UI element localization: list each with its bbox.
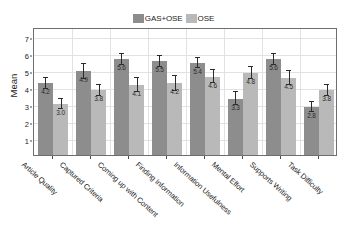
x-tick-mark bbox=[90, 156, 91, 159]
vertical-gridline bbox=[110, 29, 111, 155]
chart-legend: GAS+OSEOSE bbox=[0, 11, 350, 25]
y-tick-mark-2 bbox=[30, 123, 32, 124]
y-tick-mark-5 bbox=[30, 72, 32, 73]
vertical-gridline bbox=[300, 29, 301, 155]
vertical-gridline bbox=[148, 29, 149, 155]
plot-area: 4.23.04.93.85.64.15.54.25.44.63.34.85.64… bbox=[33, 28, 337, 156]
error-bar-cap bbox=[324, 84, 329, 85]
error-bar-cap bbox=[233, 104, 238, 105]
y-tick-mark-7 bbox=[30, 38, 32, 39]
error-bar-cap bbox=[195, 67, 200, 68]
y-tick-mark-6 bbox=[30, 55, 32, 56]
error-bar bbox=[289, 71, 290, 85]
error-bar-cap bbox=[309, 111, 314, 112]
bar bbox=[243, 73, 258, 155]
bar-value-label: 2.8 bbox=[304, 112, 319, 119]
error-bar-cap bbox=[248, 78, 253, 79]
error-bar-cap bbox=[81, 63, 86, 64]
bar-value-label: 5.6 bbox=[266, 64, 281, 71]
bar-value-label: 3.8 bbox=[319, 95, 334, 102]
bar-group: 4.23.0 bbox=[38, 29, 68, 155]
error-bar-cap bbox=[96, 95, 101, 96]
vertical-gridline bbox=[72, 29, 73, 155]
bar-group: 3.34.8 bbox=[228, 29, 258, 155]
vertical-gridline bbox=[224, 29, 225, 155]
bar-value-label: 3.8 bbox=[91, 95, 106, 102]
error-bar-cap bbox=[119, 64, 124, 65]
error-bar-cap bbox=[43, 88, 48, 89]
error-bar-cap bbox=[271, 53, 276, 54]
y-tick-label-2: 2 bbox=[25, 119, 29, 128]
legend-entry-ose: OSE bbox=[186, 14, 215, 23]
x-tick-mark bbox=[318, 156, 319, 159]
bar-group: 5.64.5 bbox=[266, 29, 296, 155]
bar-value-label: 4.8 bbox=[243, 78, 258, 85]
x-tick-mark bbox=[52, 156, 53, 159]
y-tick-mark-4 bbox=[30, 89, 32, 90]
x-tick-mark bbox=[242, 156, 243, 159]
error-bar-cap bbox=[195, 57, 200, 58]
error-bar-cap bbox=[286, 84, 291, 85]
bar-group: 4.93.8 bbox=[76, 29, 106, 155]
bar-chart-figure: GAS+OSEOSE Mean 1234567 4.23.04.93.85.64… bbox=[0, 0, 350, 238]
legend-swatch-icon bbox=[133, 14, 144, 23]
bar-value-label: 3.0 bbox=[53, 109, 68, 116]
error-bar-cap bbox=[81, 78, 86, 79]
vertical-gridline bbox=[262, 29, 263, 155]
legend-label: OSE bbox=[198, 14, 215, 23]
y-tick-label-1: 1 bbox=[25, 136, 29, 145]
bar bbox=[190, 63, 205, 155]
error-bar-cap bbox=[134, 77, 139, 78]
error-bar-cap bbox=[172, 90, 177, 91]
error-bar-cap bbox=[157, 55, 162, 56]
y-tick-label-7: 7 bbox=[25, 34, 29, 43]
x-tick-label: Task Difficulty bbox=[286, 160, 325, 196]
error-bar-cap bbox=[210, 82, 215, 83]
x-tick-label: Mental Effort bbox=[210, 160, 247, 194]
error-bar-cap bbox=[233, 91, 238, 92]
bar-value-label: 4.2 bbox=[38, 88, 53, 95]
bar bbox=[76, 71, 91, 155]
bar-group: 5.64.1 bbox=[114, 29, 144, 155]
bar-group: 2.83.8 bbox=[304, 29, 334, 155]
error-bar-cap bbox=[248, 66, 253, 67]
error-bar-cap bbox=[96, 84, 101, 85]
error-bar-cap bbox=[271, 64, 276, 65]
error-bar-cap bbox=[58, 108, 63, 109]
error-bar-cap bbox=[134, 91, 139, 92]
bar-group: 5.44.6 bbox=[190, 29, 220, 155]
error-bar-cap bbox=[157, 66, 162, 67]
vertical-gridline bbox=[186, 29, 187, 155]
legend-entry-gas-plus-ose: GAS+OSE bbox=[133, 14, 183, 23]
y-tick-label-6: 6 bbox=[25, 51, 29, 60]
x-tick-label: Article Quality bbox=[20, 160, 59, 197]
x-tick-mark bbox=[128, 156, 129, 159]
y-tick-mark-1 bbox=[30, 140, 32, 141]
error-bar-cap bbox=[324, 95, 329, 96]
x-tick-mark bbox=[204, 156, 205, 159]
error-bar-cap bbox=[58, 98, 63, 99]
error-bar-cap bbox=[172, 75, 177, 76]
bar-value-label: 5.5 bbox=[152, 66, 167, 73]
legend-swatch-icon bbox=[186, 14, 197, 23]
bar bbox=[152, 61, 167, 155]
bar bbox=[114, 59, 129, 155]
bar bbox=[266, 59, 281, 155]
error-bar-cap bbox=[309, 101, 314, 102]
y-tick-mark-3 bbox=[30, 106, 32, 107]
error-bar-cap bbox=[119, 53, 124, 54]
error-bar bbox=[137, 78, 138, 92]
x-axis-tick-labels: Article QualityCaptured CriteriaComing u… bbox=[33, 160, 337, 230]
bar-group: 5.54.2 bbox=[152, 29, 182, 155]
bar-value-label: 5.6 bbox=[114, 64, 129, 71]
error-bar-cap bbox=[210, 69, 215, 70]
error-bar-cap bbox=[286, 70, 291, 71]
y-tick-label-3: 3 bbox=[25, 102, 29, 111]
y-axis-tick-labels: 1234567 bbox=[16, 30, 32, 154]
y-tick-label-4: 4 bbox=[25, 85, 29, 94]
legend-label: GAS+OSE bbox=[145, 14, 183, 23]
x-tick-mark bbox=[166, 156, 167, 159]
error-bar-cap bbox=[43, 77, 48, 78]
y-tick-label-5: 5 bbox=[25, 68, 29, 77]
error-bar bbox=[175, 76, 176, 90]
